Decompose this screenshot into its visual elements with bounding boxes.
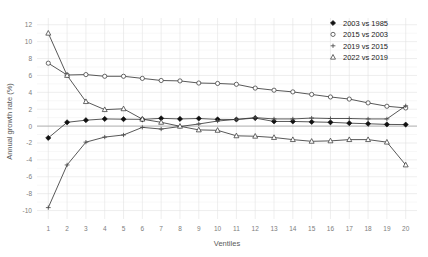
marker-open-circle	[366, 101, 370, 105]
marker-open-circle	[328, 95, 332, 99]
marker-open-circle	[385, 104, 389, 108]
marker-open-circle	[253, 86, 257, 90]
legend-item-label: 2022 vs 2019	[343, 53, 388, 62]
marker-open-circle	[46, 61, 50, 65]
marker-open-circle	[84, 72, 88, 76]
y-axis-title: Annual growth rate (%)	[5, 83, 14, 160]
legend-item-label: 2019 vs 2015	[343, 42, 388, 51]
x-tick-label: 15	[308, 225, 316, 232]
x-tick-label: 16	[327, 225, 335, 232]
marker-open-circle	[234, 82, 238, 86]
marker-open-circle	[197, 81, 201, 85]
x-tick-label: 1	[46, 225, 50, 232]
y-tick-label: -6	[26, 173, 32, 180]
marker-open-circle	[347, 97, 351, 101]
y-tick-label: 4	[28, 89, 32, 96]
x-tick-label: 10	[214, 225, 222, 232]
x-tick-label: 5	[122, 225, 126, 232]
chart-container: -10-8-6-4-2024681012 1234567891011121314…	[0, 0, 428, 257]
y-tick-label: -8	[26, 190, 32, 197]
y-tick-label: 8	[28, 55, 32, 62]
y-tick-label: -2	[26, 139, 32, 146]
y-tick-label: -10	[23, 207, 33, 214]
growth-rate-line-chart: -10-8-6-4-2024681012 1234567891011121314…	[0, 0, 428, 257]
x-tick-label: 11	[233, 225, 240, 232]
x-tick-label: 3	[84, 225, 88, 232]
x-tick-label: 9	[197, 225, 201, 232]
marker-open-circle	[272, 88, 276, 92]
marker-open-circle	[121, 74, 125, 78]
y-tick-label: -4	[26, 156, 32, 163]
y-tick-label: 10	[25, 38, 33, 45]
x-tick-label: 14	[289, 225, 297, 232]
x-tick-label: 4	[103, 225, 107, 232]
marker-open-circle	[103, 74, 107, 78]
marker-open-circle	[140, 76, 144, 80]
y-tick-label: 2	[28, 106, 32, 113]
y-tick-label: 0	[28, 123, 32, 130]
x-axis-title: Ventiles	[214, 239, 241, 248]
x-tick-label: 2	[65, 225, 69, 232]
y-tick-label: 6	[28, 72, 32, 79]
marker-open-circle	[310, 92, 314, 96]
x-tick-label: 18	[364, 225, 372, 232]
y-tick-label: 12	[25, 21, 33, 28]
x-tick-label: 13	[270, 225, 278, 232]
x-tick-label: 12	[252, 225, 260, 232]
x-tick-label: 6	[141, 225, 145, 232]
x-tick-label: 7	[159, 225, 163, 232]
legend-item-label: 2003 vs 1985	[343, 19, 388, 28]
marker-open-circle	[331, 32, 335, 36]
marker-open-circle	[178, 79, 182, 83]
marker-open-circle	[291, 90, 295, 94]
x-tick-label: 8	[178, 225, 182, 232]
x-tick-label: 20	[402, 225, 410, 232]
x-tick-label: 17	[346, 225, 354, 232]
marker-open-circle	[159, 78, 163, 82]
marker-open-circle	[215, 81, 219, 85]
x-tick-label: 19	[383, 225, 391, 232]
legend-item-label: 2015 vs 2003	[343, 30, 388, 39]
